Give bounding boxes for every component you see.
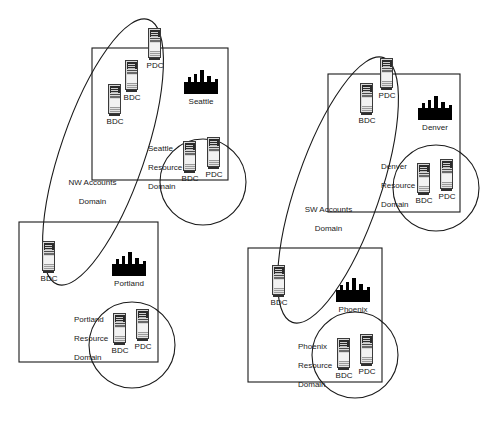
resource-domain-label-seattle: Seattle Resource Domain <box>148 134 182 191</box>
server-nw-pdc <box>148 28 161 60</box>
server-tower-icon <box>360 334 373 364</box>
server-tower-icon <box>337 338 350 368</box>
diagram-canvas: PDC BDC BDC BDC <box>0 0 484 421</box>
server-tower-icon <box>136 309 149 339</box>
resource-domain-label-portland-line1: Portland <box>74 315 104 324</box>
server-sw-pdc <box>380 58 393 90</box>
server-label-nw-bdc-1: BDC <box>124 93 141 103</box>
accounts-domain-label-nw: NW Accounts Domain <box>60 168 117 216</box>
accounts-domain-label-nw-line2: Domain <box>79 197 107 206</box>
server-tower-icon <box>360 83 373 113</box>
server-label-nw-bdc-2: BDC <box>107 117 124 127</box>
resource-domain-label-phoenix-line1: Phoenix <box>298 342 327 351</box>
server-denver-pdc <box>440 159 453 191</box>
server-label-sw-pdc: PDC <box>379 91 396 101</box>
skyline-icon-portland <box>110 252 148 276</box>
server-tower-icon <box>183 141 196 171</box>
accounts-domain-label-sw-line1: SW Accounts <box>305 205 353 214</box>
server-label-portland-pdc: PDC <box>135 342 152 352</box>
server-sw-bdc-2 <box>272 265 285 297</box>
skyline-icon-seattle <box>182 70 220 94</box>
server-label-denver-bdc: BDC <box>416 196 433 206</box>
server-phoenix-pdc <box>360 334 373 366</box>
city-label-denver: Denver <box>422 123 448 133</box>
accounts-domain-label-sw-line2: Domain <box>315 224 343 233</box>
server-label-phoenix-pdc: PDC <box>359 367 376 377</box>
server-label-nw-pdc: PDC <box>147 61 164 71</box>
resource-domain-label-portland-line3: Domain <box>74 353 102 362</box>
server-label-sw-bdc-1: BDC <box>359 116 376 126</box>
resource-domain-label-phoenix-line3: Domain <box>298 380 326 389</box>
server-label-phoenix-bdc: BDC <box>336 371 353 381</box>
server-label-sw-bdc-2: BDC <box>271 298 288 308</box>
server-tower-icon <box>148 28 161 58</box>
accounts-domain-label-nw-line1: NW Accounts <box>68 178 116 187</box>
resource-domain-label-phoenix: Phoenix Resource Domain <box>298 332 332 389</box>
resource-domain-label-portland: Portland Resource Domain <box>74 305 108 362</box>
resource-domain-label-portland-line2: Resource <box>74 334 108 343</box>
server-tower-icon <box>417 163 430 193</box>
skyline-icon-denver <box>416 96 454 120</box>
city-label-portland: Portland <box>114 279 144 289</box>
resource-domain-label-denver-line2: Resource <box>381 181 415 190</box>
server-tower-icon <box>440 159 453 189</box>
server-label-denver-pdc: PDC <box>439 192 456 202</box>
accounts-domain-label-sw: SW Accounts Domain <box>296 195 352 243</box>
resource-domain-label-denver: Denver Resource Domain <box>381 152 415 209</box>
skyline-icon-phoenix <box>334 278 372 302</box>
server-label-seattle-bdc: BDC <box>182 174 199 184</box>
resource-domain-label-seattle-line1: Seattle <box>148 144 173 153</box>
resource-domain-label-seattle-line2: Resource <box>148 163 182 172</box>
server-label-seattle-pdc: PDC <box>206 170 223 180</box>
server-tower-icon <box>380 58 393 88</box>
resource-domain-label-phoenix-line2: Resource <box>298 361 332 370</box>
server-seattle-pdc <box>207 137 220 169</box>
server-tower-icon <box>125 60 138 90</box>
server-portland-bdc <box>113 313 126 345</box>
server-nw-bdc-2 <box>108 84 121 116</box>
server-tower-icon <box>113 313 126 343</box>
server-sw-bdc-1 <box>360 83 373 115</box>
server-portland-pdc <box>136 309 149 341</box>
server-tower-icon <box>272 265 285 295</box>
resource-domain-label-denver-line3: Domain <box>381 200 409 209</box>
server-nw-bdc-1 <box>125 60 138 92</box>
server-nw-bdc-3 <box>42 241 55 273</box>
resource-domain-label-seattle-line3: Domain <box>148 182 176 191</box>
resource-domain-label-denver-line1: Denver <box>381 162 407 171</box>
server-tower-icon <box>108 84 121 114</box>
server-denver-bdc <box>417 163 430 195</box>
server-tower-icon <box>42 241 55 271</box>
city-label-phoenix: Phoenix <box>339 305 368 315</box>
server-seattle-bdc <box>183 141 196 173</box>
server-label-nw-bdc-3: BDC <box>41 274 58 284</box>
city-label-seattle: Seattle <box>189 97 214 107</box>
server-label-portland-bdc: BDC <box>112 346 129 356</box>
server-phoenix-bdc <box>337 338 350 370</box>
server-tower-icon <box>207 137 220 167</box>
